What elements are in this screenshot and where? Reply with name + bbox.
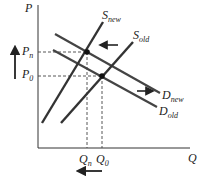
d-old-label: Dold [159,105,178,120]
q-axis-label: Q [188,152,197,164]
q0-label: Q0 [96,153,109,168]
equilibrium-new-point [84,49,90,55]
s-new-label: Snew [102,9,121,24]
pn-label: Pn [22,45,33,60]
equilibrium-old-point [99,73,105,79]
p-axis-label: P [25,2,32,14]
d-new-label: Dnew [162,89,184,104]
p0-label: P0 [22,68,33,83]
s-old-label: Sold [133,29,149,44]
s-old-curve [61,42,133,123]
qn-label: Qn [79,153,92,168]
